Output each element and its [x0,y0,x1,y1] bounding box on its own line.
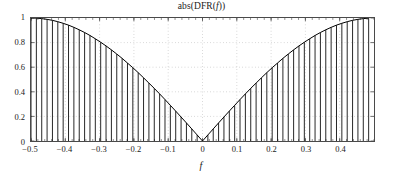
chart-title: abs(DFR(f)) [0,1,403,11]
x-tick-label: 0.4 [335,144,346,154]
x-tick-label: 0.3 [301,144,312,154]
chart-title-prefix: abs(DFR( [178,1,216,11]
x-tick-label: 0.1 [232,144,243,154]
x-tick-label: −0.2 [126,144,141,154]
x-tick-label: −0.5 [22,144,37,154]
plot-area [30,17,375,142]
y-tick-label: 0.2 [14,112,25,122]
x-axis-label: f [0,160,403,171]
chart-title-suffix: )) [219,1,226,11]
x-tick-label: −0.4 [57,144,72,154]
x-tick-label: 0.2 [266,144,277,154]
envelope-curve [31,18,374,141]
figure-canvas: abs(DFR(f)) 00.20.40.60.81 −0.5−0.4−0.3−… [0,0,403,187]
y-tick-label: 1 [21,12,25,22]
x-tick-label: −0.1 [160,144,175,154]
x-axis-label-text: f [200,160,203,171]
y-tick-label: 0.4 [14,87,25,97]
x-tick-label: −0.3 [91,144,106,154]
y-tick-label: 0.8 [14,37,25,47]
y-tick-label: 0.6 [14,62,25,72]
x-tick-label: 0 [200,144,204,154]
